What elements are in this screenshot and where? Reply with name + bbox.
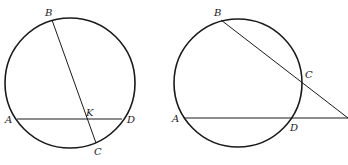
right-circle [174,19,302,147]
left-circle [5,18,135,148]
geometry-figures: B K A D C B C A D [0,0,348,165]
label-d: D [289,122,298,133]
label-d: D [126,114,135,125]
chord-bc [52,20,96,143]
label-c: C [94,146,102,157]
label-b: B [213,7,221,18]
label-b: B [44,7,52,18]
secant-bc [221,20,348,118]
figure-secants: B C A D [171,7,348,147]
label-c: C [305,69,313,80]
label-k: K [85,107,94,118]
figure-intersecting-chords: B K A D C [4,7,135,157]
label-a: A [171,113,179,124]
label-a: A [4,114,12,125]
